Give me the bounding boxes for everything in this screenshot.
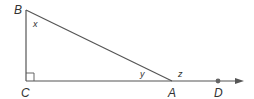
vertex-label-c: C: [21, 86, 30, 99]
angle-label-x: x: [32, 19, 38, 29]
angle-label-y: y: [139, 69, 145, 79]
vertex-label-a: A: [167, 86, 176, 99]
vertex-label-d: D: [214, 86, 223, 99]
triangle-diagram: B C A D x y z: [0, 0, 254, 99]
arrowhead-icon: [235, 78, 244, 84]
vertex-label-b: B: [14, 3, 22, 17]
point-d: [216, 79, 221, 84]
angle-label-z: z: [177, 69, 183, 79]
right-angle-marker: [26, 73, 34, 81]
side-ba: [26, 10, 172, 81]
